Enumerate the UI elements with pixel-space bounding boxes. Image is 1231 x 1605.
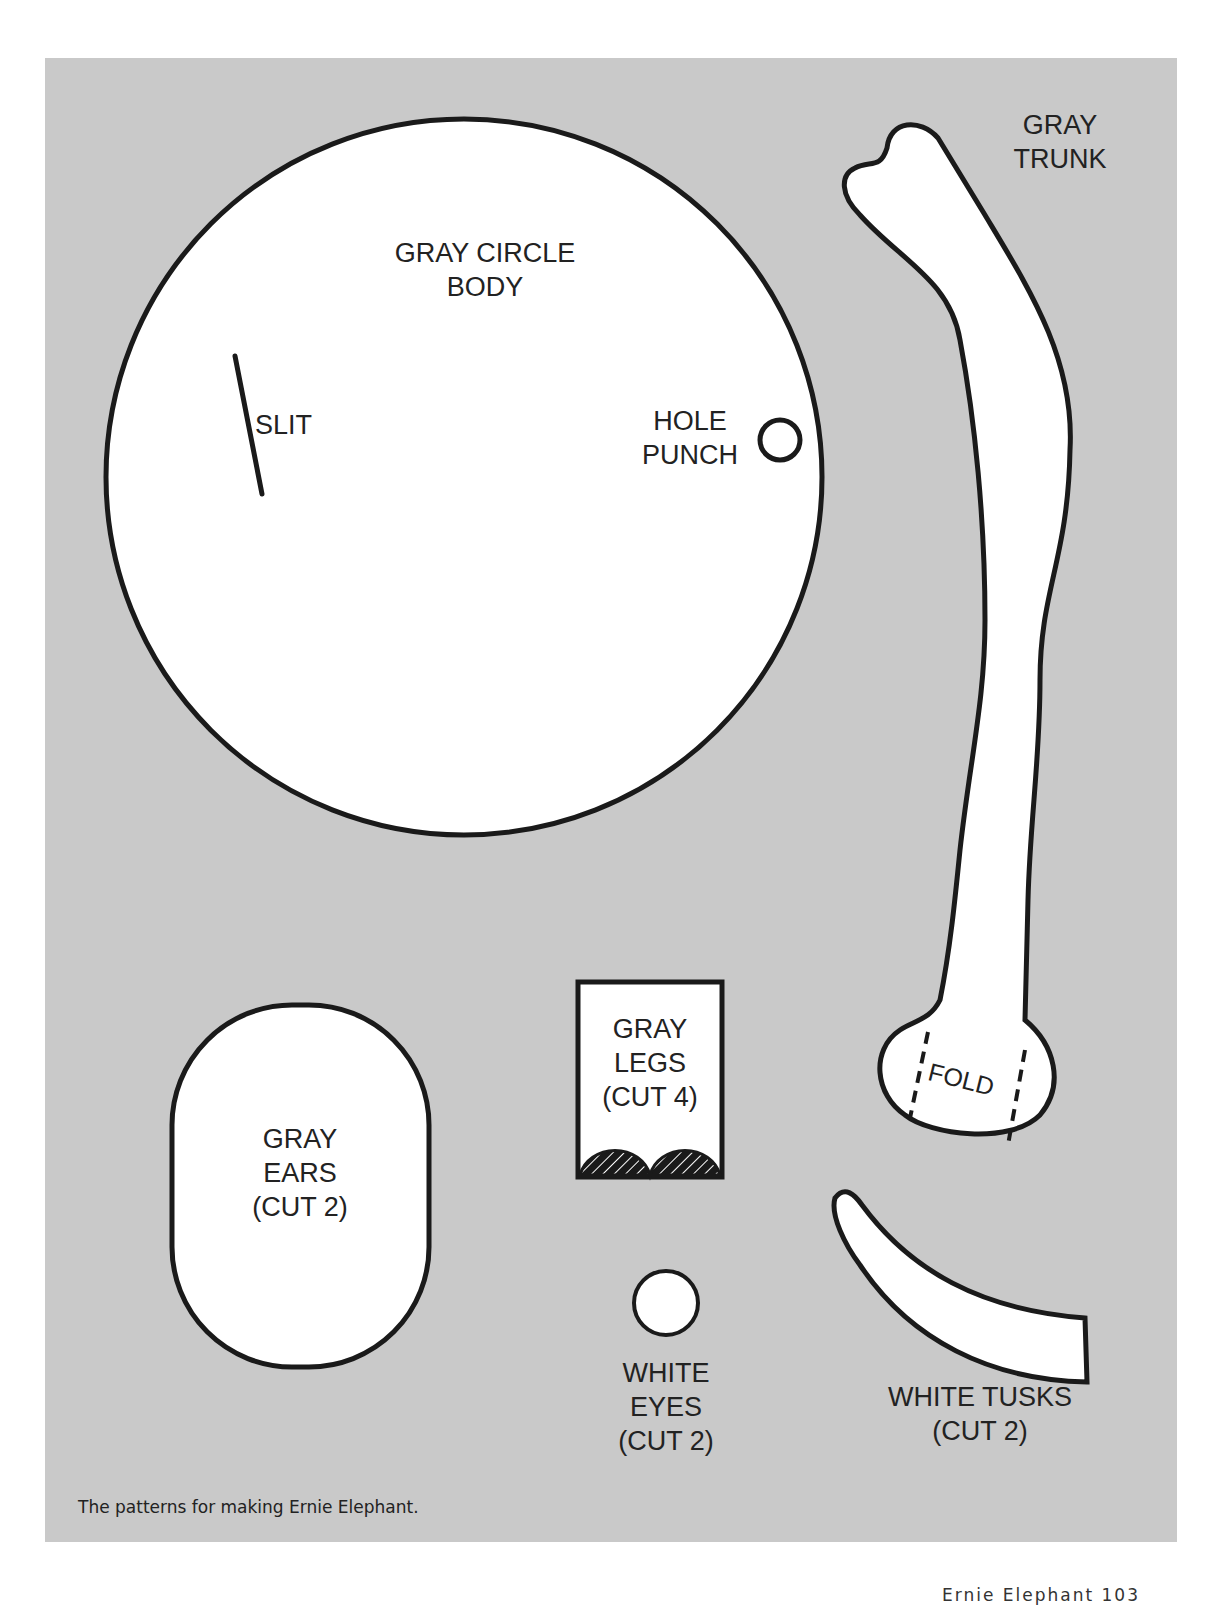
trunk-shape bbox=[844, 125, 1070, 1134]
hole-punch-circle bbox=[760, 420, 800, 460]
trunk-label: GRAY TRUNK bbox=[990, 108, 1130, 176]
body-label: GRAY CIRCLE BODY bbox=[355, 236, 615, 304]
hole-punch-label: HOLE PUNCH bbox=[630, 404, 750, 472]
figure-caption: The patterns for making Ernie Elephant. bbox=[78, 1497, 419, 1517]
tusks-label: WHITE TUSKS (CUT 2) bbox=[860, 1380, 1100, 1448]
eye-shape bbox=[634, 1271, 698, 1335]
page-footer: Ernie Elephant 103 bbox=[942, 1585, 1140, 1605]
body-circle-shape bbox=[106, 119, 822, 835]
ears-label: GRAY EARS (CUT 2) bbox=[210, 1122, 390, 1224]
eyes-label: WHITE EYES (CUT 2) bbox=[586, 1356, 746, 1458]
legs-label: GRAY LEGS (CUT 4) bbox=[578, 1012, 722, 1114]
tusk-shape bbox=[834, 1192, 1087, 1382]
slit-label: SLIT bbox=[255, 408, 312, 442]
